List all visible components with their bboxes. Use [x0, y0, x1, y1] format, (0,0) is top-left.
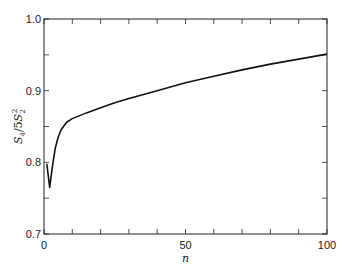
plot-frame: [44, 19, 327, 234]
x-axis-label: n: [182, 252, 189, 265]
x-tick-label: 100: [318, 239, 336, 251]
y-tick-label: 0.8: [26, 156, 41, 168]
x-tick-label: 50: [179, 239, 191, 251]
y-tick-label: 0.9: [26, 85, 41, 97]
series-layer: [47, 54, 327, 187]
tick-labels: 0501000.70.80.91.0: [26, 13, 336, 251]
y-tick-label: 0.7: [26, 228, 41, 240]
x-tick-label: 0: [41, 239, 47, 251]
series-line: [47, 54, 327, 187]
chart: 0501000.70.80.91.0 n S4/5S22: [0, 0, 346, 265]
y-axis-label: S4/5S22: [11, 109, 27, 144]
y-tick-label: 1.0: [26, 13, 41, 25]
ticks: [44, 19, 327, 234]
